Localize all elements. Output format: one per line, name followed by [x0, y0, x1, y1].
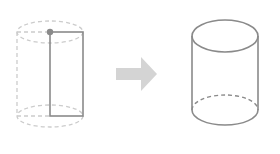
- cylinder-bottom-front: [192, 110, 258, 125]
- rectangle-solid: [50, 32, 83, 116]
- cylinder-top: [192, 20, 258, 52]
- axis-dot: [47, 29, 53, 35]
- left-figure: [17, 21, 83, 127]
- diagram-canvas: [0, 0, 280, 154]
- cylinder-bottom-back-dashed: [192, 95, 258, 110]
- right-figure-cylinder: [192, 20, 258, 125]
- arrow-right-icon: [116, 57, 157, 91]
